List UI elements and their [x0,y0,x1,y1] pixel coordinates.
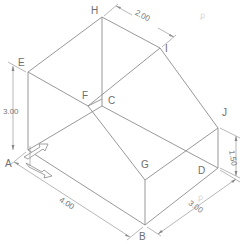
vertex-label-D: D [198,165,205,176]
object-edges [28,17,218,225]
isometric-drawing: ꝑ ꝑ [0,0,250,245]
vertex-label-E: E [18,57,25,68]
vertex-label-A: A [5,158,12,169]
edge-E-H [28,17,102,72]
dimension-right-height: 1.50 [220,128,240,178]
dimension-right-depth: 3.00 [147,170,240,236]
watermark-bottom: ꝑ [197,193,203,202]
vertex-label-H: H [91,5,98,16]
vertex-label-F: F [82,90,88,101]
edge-C-D [102,106,218,168]
dimension-left-height: 3.00 [3,62,26,150]
edge-A-B [28,150,145,225]
vertex-label-I: I [165,43,168,54]
edge-B-D [145,168,218,225]
watermark-top: ꝑ [199,11,205,20]
vertex-label-B: B [139,231,146,242]
dimension-label-2-00: 2.00 [133,8,151,24]
dimension-label-4-00: 4.00 [58,195,76,211]
edge-H-I [102,17,160,48]
edge-G-J [145,128,218,180]
vertex-label-J: J [222,107,227,118]
dimension-top-width: 2.00 [104,4,176,47]
edge-F-G [88,106,145,180]
dimension-label-3-00-left: 3.00 [3,107,19,116]
dimension-label-1-50: 1.50 [227,150,239,167]
edge-I-F [88,48,160,106]
vertex-label-G: G [141,159,149,170]
edge-E-F [28,72,88,106]
edge-A-C [28,106,102,150]
vertex-label-C: C [108,95,115,106]
edge-I-J [160,48,218,128]
